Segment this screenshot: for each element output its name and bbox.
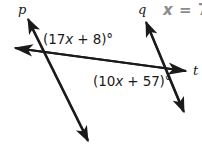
angle-1-prefix: (17 bbox=[43, 31, 65, 47]
solution-label: x = 7 bbox=[163, 3, 202, 18]
angle-1-variable: x bbox=[65, 31, 73, 47]
angle-label-lower: (10x + 57)° bbox=[93, 75, 171, 89]
angle-2-prefix: (10 bbox=[93, 73, 115, 89]
geometry-figure: p q t (17x + 8)° (10x + 57)° x = 7 bbox=[0, 0, 202, 154]
line-label-t: t bbox=[193, 64, 198, 77]
angle-1-suffix: + 8)° bbox=[73, 31, 113, 47]
angle-2-variable: x bbox=[115, 73, 123, 89]
line-t bbox=[15, 48, 186, 71]
angle-2-suffix: + 57)° bbox=[123, 73, 171, 89]
angle-label-upper: (17x + 8)° bbox=[43, 33, 113, 47]
solution-equals: = bbox=[173, 1, 198, 19]
solution-variable: x bbox=[163, 1, 173, 19]
solution-value: 7 bbox=[198, 1, 202, 19]
line-label-q: q bbox=[138, 3, 146, 16]
line-label-p: p bbox=[18, 3, 26, 16]
